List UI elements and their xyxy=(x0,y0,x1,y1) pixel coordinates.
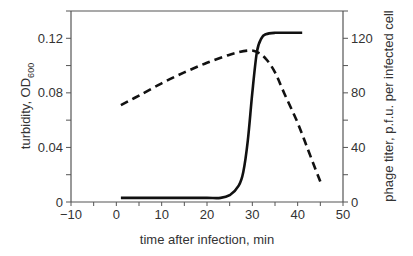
phage-titer-solid-line xyxy=(121,33,302,198)
data-series xyxy=(121,33,320,198)
x-tick-label: 50 xyxy=(336,207,350,222)
turbidity-dashed-line xyxy=(121,50,320,181)
y-left-tick-label: 0 xyxy=(56,195,63,210)
x-axis-label: time after infection, min xyxy=(140,232,274,247)
plot-frame xyxy=(71,11,343,202)
y-axis-left-label: turbidity, OD600 xyxy=(18,63,36,149)
y-axis-right-label: phage titer, p.f.u. per infected cell xyxy=(381,10,396,202)
x-tick-label: 0 xyxy=(113,207,120,222)
axis-ticks: −100102030405000.040.080.1204080120 xyxy=(38,11,373,222)
y-right-tick-label: 0 xyxy=(351,195,358,210)
x-tick-label: 30 xyxy=(245,207,259,222)
y-left-label-subscript: 600 xyxy=(26,63,36,78)
x-tick-label: 20 xyxy=(200,207,214,222)
x-tick-label: 10 xyxy=(154,207,168,222)
phage-growth-chart: −100102030405000.040.080.1204080120 time… xyxy=(0,0,413,256)
y-right-tick-label: 120 xyxy=(351,31,373,46)
y-right-tick-label: 40 xyxy=(351,140,365,155)
y-left-tick-label: 0.12 xyxy=(38,31,63,46)
x-tick-label: 40 xyxy=(290,207,304,222)
y-left-tick-label: 0.04 xyxy=(38,140,63,155)
y-left-tick-label: 0.08 xyxy=(38,85,63,100)
y-left-label-main: turbidity, OD xyxy=(18,78,33,149)
x-tick-label: −10 xyxy=(60,207,82,222)
y-right-tick-label: 80 xyxy=(351,85,365,100)
